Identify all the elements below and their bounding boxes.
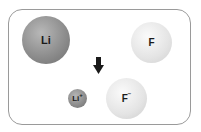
fluorine-atom: F (131, 22, 172, 63)
fluoride-ion-label: F− (122, 93, 132, 104)
lithium-ion-charge: + (79, 92, 83, 98)
down-arrow-icon (93, 57, 104, 74)
fluoride-ion: F− (106, 78, 147, 119)
lithium-atom-label: Li (41, 34, 51, 46)
fluoride-ion-charge: − (128, 91, 132, 97)
lithium-ion-label: Li+ (72, 94, 83, 103)
fluorine-atom-label: F (148, 37, 154, 48)
lithium-atom: Li (22, 16, 70, 64)
lithium-ion: Li+ (68, 89, 87, 108)
